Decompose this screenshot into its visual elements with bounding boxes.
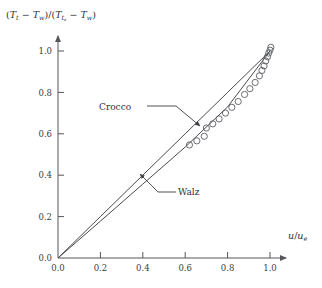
x-tick-label-1: 0.2 (94, 263, 108, 273)
figure-container: (Tt − Tw)/(Tte − Tw) u/ue Crocco Walz (0, 0, 322, 288)
curve-crocco (58, 51, 270, 258)
data-point (235, 98, 241, 104)
plot-area: 1.0 0.8 0.6 0.4 0.2 0.0 0.0 0.2 0.4 0.6 … (0, 0, 322, 288)
y-tick-labels: 1.0 0.8 0.6 0.4 0.2 0.0 (38, 46, 52, 263)
x-tick-labels: 0.0 0.2 0.4 0.6 0.8 1.0 (51, 263, 277, 273)
data-point (216, 116, 222, 122)
y-tick-label-3: 0.8 (38, 88, 52, 98)
x-tick-label-4: 0.8 (221, 263, 235, 273)
data-point (203, 125, 209, 131)
data-point (241, 91, 247, 97)
data-point (194, 138, 200, 144)
data-point (252, 79, 258, 85)
origin-label: 0.0 (38, 253, 52, 263)
x-tick-label-2: 0.4 (136, 263, 150, 273)
data-point (229, 104, 235, 110)
x-tick-label-5: 1.0 (263, 263, 277, 273)
y-axis-ticks (58, 51, 64, 217)
y-tick-label-2: 0.6 (38, 129, 52, 139)
leader-line-walz (140, 174, 176, 192)
y-tick-label-4: 1.0 (38, 46, 52, 56)
leader-line-crocco (147, 106, 200, 126)
x-tick-label-0: 0.0 (51, 263, 65, 273)
data-point (201, 133, 207, 139)
y-tick-label-1: 0.4 (38, 170, 52, 180)
x-tick-label-3: 0.6 (178, 263, 192, 273)
data-point (222, 110, 228, 116)
data-point (210, 121, 216, 127)
x-axis-ticks (100, 252, 270, 258)
y-tick-label-0: 0.2 (38, 212, 52, 222)
data-point (247, 86, 253, 92)
curve-series-group (58, 51, 270, 258)
